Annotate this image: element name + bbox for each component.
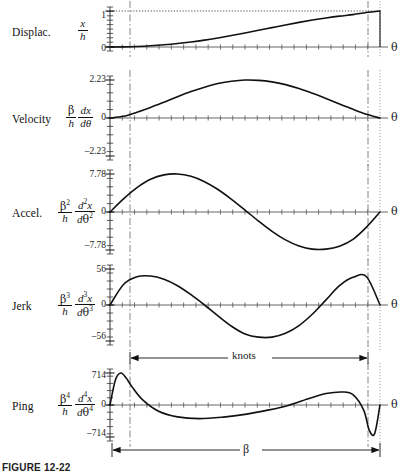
theta-axis-label: θ	[391, 398, 398, 411]
ytick-label: –2.23	[66, 146, 106, 156]
panel-acceleration	[106, 164, 389, 260]
curve-velocity	[110, 80, 380, 118]
ytick-label: 56	[72, 264, 106, 274]
ytick-label: 0	[70, 206, 106, 216]
ytick-label: –714	[64, 428, 106, 438]
theta-axis-label: θ	[391, 298, 398, 311]
row-label-acceleration: Accel.	[12, 207, 42, 219]
figure-caption: FIGURE 12-22	[2, 462, 71, 471]
row-label-displacement: Displac.	[12, 26, 51, 38]
row-label-jerk: Jerk	[12, 300, 32, 312]
ytick-label: 0	[70, 399, 106, 409]
panel-velocity	[106, 70, 389, 166]
beta-span-label: β	[243, 442, 249, 457]
row-label-ping: Ping	[12, 400, 34, 412]
ytick-label: –7.78	[66, 240, 106, 250]
ytick-label: 0	[78, 43, 106, 53]
knots-span-label: knots	[232, 349, 256, 361]
panel-ping	[106, 363, 389, 447]
panel-jerk	[106, 259, 389, 351]
ytick-label: 714	[70, 370, 106, 380]
theta-axis-label: θ	[391, 41, 398, 54]
curve-displacement	[110, 11, 380, 47]
plot-layer	[106, 1, 389, 457]
ytick-label: 7.78	[70, 169, 106, 179]
ytick-label: –56	[68, 331, 106, 341]
panel-displacement	[106, 1, 389, 57]
ytick-label: 2.23	[70, 74, 106, 84]
ytick-label: 0	[72, 299, 106, 309]
ytick-label: 0	[70, 112, 106, 122]
theta-axis-label: θ	[391, 205, 398, 218]
row-formula-displacement: xh	[78, 18, 88, 42]
formula-numerator-exponent: 3	[66, 291, 70, 300]
formula-denominator: h	[78, 31, 88, 43]
formula-denominator: h	[58, 306, 72, 318]
theta-axis-label: θ	[391, 111, 398, 124]
row-label-velocity: Velocity	[12, 113, 51, 125]
ytick-label: 1	[78, 10, 106, 20]
